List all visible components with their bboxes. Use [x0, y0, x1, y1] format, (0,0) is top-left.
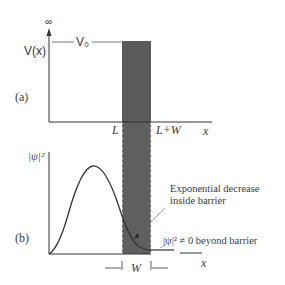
v-of-x-label: V(x)	[24, 45, 46, 57]
annotation-inside-line2: inside barrier	[170, 196, 226, 207]
barrier-rect-a	[122, 41, 151, 122]
x-axis-label-b: x	[201, 257, 206, 269]
infinity-label: ∞	[45, 17, 52, 27]
panel-b-label: (b)	[15, 232, 29, 244]
v0-label: V₀	[76, 36, 89, 48]
barrier-left-label: L	[112, 124, 119, 136]
psi-squared-label: |ψ|²	[28, 151, 44, 162]
panel-a-label: (a)	[15, 91, 28, 103]
arrow-up-icon	[47, 28, 52, 36]
width-label: W	[131, 262, 141, 274]
annotation-beyond: |ψ|² ≠ 0 beyond barrier	[163, 236, 257, 247]
tunneling-figure: ∞ V(x) V₀ (a) L L+W x |ψ|² (b) Exponenti…	[0, 0, 285, 285]
x-axis-label-a: x	[203, 125, 208, 137]
barrier-right-label: L+W	[156, 124, 181, 136]
barrier-rect-b	[122, 122, 151, 254]
annotation-inside-line1: Exponential decrease	[170, 184, 260, 195]
